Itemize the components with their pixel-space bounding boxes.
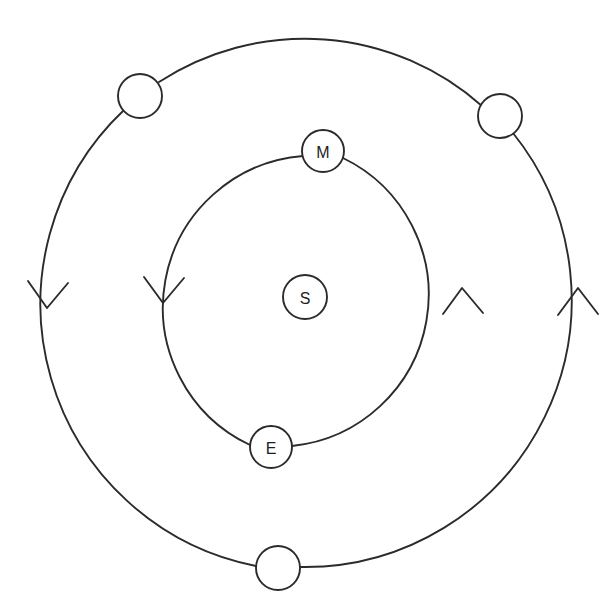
arrow-down-icon-outer-left [28,281,68,308]
body-earth-label: E [266,440,277,457]
orbit-diagram: M E S [0,0,615,613]
body-outer-upper-right[interactable] [478,94,522,138]
body-sun-label: S [300,290,311,307]
body-mercury-label: M [316,144,329,161]
arrow-up-icon-outer-right [558,288,598,315]
diagram-canvas: M E S [0,0,615,613]
arrow-up-icon-inner-right [443,288,483,314]
outer-orbit-arc-top [159,39,482,106]
outer-orbit-arc-right [300,133,572,567]
central-body-group: S [283,275,327,319]
outer-orbit-arc-left [40,110,256,566]
body-outer-upper-left[interactable] [118,74,162,118]
inner-orbit-arc-left [163,156,303,445]
body-outer-bottom[interactable] [256,546,300,590]
